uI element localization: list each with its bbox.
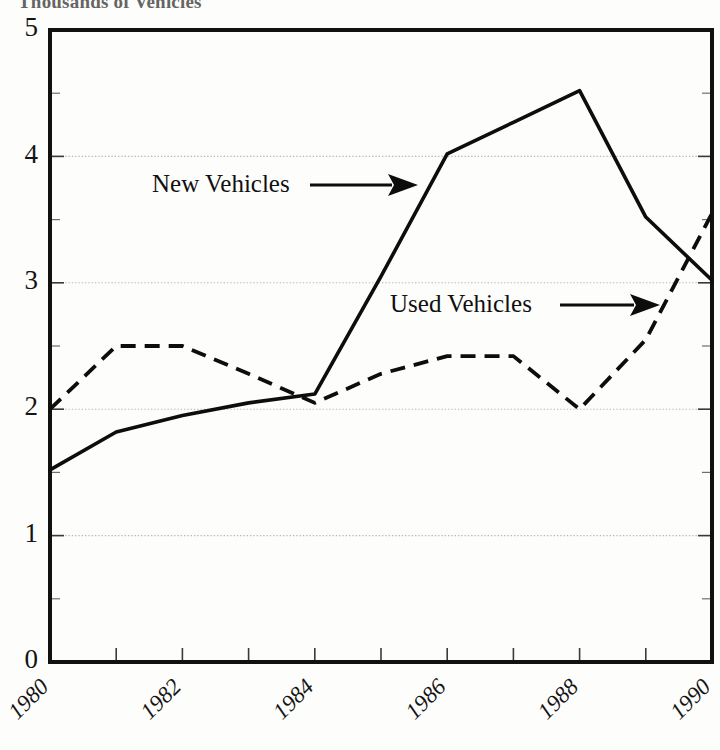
y-tick-label: 5	[25, 12, 39, 42]
series-line-new-vehicles	[50, 91, 712, 470]
x-tick-label: 1986	[401, 674, 452, 725]
x-tick-label: 1982	[136, 674, 186, 724]
annotation-arrow-head	[630, 294, 660, 316]
y-tick-label: 4	[25, 139, 39, 169]
y-tick-label: 1	[25, 518, 39, 548]
line-chart-plot: 012345 198019821984198619881990 New Vehi…	[0, 0, 720, 750]
y-axis-tick-labels: 012345	[25, 12, 39, 674]
x-tick-label: 1988	[533, 674, 584, 725]
x-tick-label: 1980	[3, 674, 54, 725]
x-ticks-group	[116, 648, 646, 662]
chart-title: Thousands of Vehicles	[18, 0, 202, 13]
x-axis-tick-labels: 198019821984198619881990	[3, 674, 716, 725]
annotation-arrow-head	[388, 174, 418, 196]
series-annotation-label: Used Vehicles	[390, 290, 532, 317]
series-line-used-vehicles	[50, 213, 712, 409]
series-annotation-label: New Vehicles	[152, 170, 290, 197]
x-tick-label: 1984	[268, 674, 318, 724]
x-tick-label: 1990	[665, 674, 716, 725]
y-tick-label: 3	[25, 265, 39, 295]
chart-figure: Thousands of Vehicles 012345 19801982198…	[0, 0, 720, 750]
series-annotations-group: New VehiclesUsed Vehicles	[152, 170, 660, 317]
y-tick-label: 2	[25, 391, 39, 421]
y-tick-label: 0	[25, 644, 39, 674]
